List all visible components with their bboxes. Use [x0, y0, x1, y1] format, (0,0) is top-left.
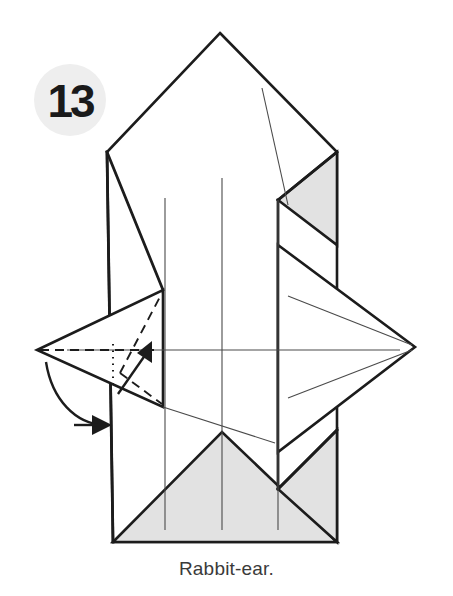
step-number-text: 13 — [47, 75, 94, 127]
right-point-flap — [278, 245, 415, 452]
origami-step-figure: 13 Rabbit-ear. — [0, 0, 453, 596]
step-number-badge: 13 — [34, 64, 106, 136]
figure-caption: Rabbit-ear. — [0, 558, 453, 580]
origami-diagram: 13 — [0, 0, 453, 596]
